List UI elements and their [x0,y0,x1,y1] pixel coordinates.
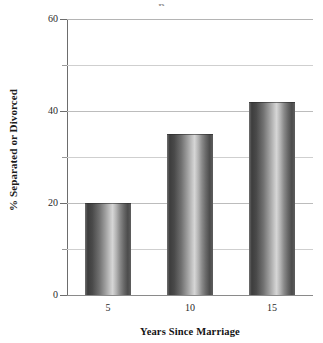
y-axis-title: % Separated or Divorced [4,0,22,300]
x-axis-line [67,295,313,296]
chart-title-remnant: p [0,0,323,6]
x-tick-label: 10 [160,303,220,313]
x-tick-label: 5 [78,303,138,313]
y-tick-mark [60,19,67,20]
y-tick-mark-minor [62,249,67,250]
x-axis-title: Years Since Marriage [67,326,313,337]
y-tick-mark [60,203,67,204]
y-tick-label: 60 [12,14,58,24]
bar [249,102,295,295]
bar-chart: p % Separated or Divorced 0204060 51015 … [0,0,323,343]
bar [85,203,131,295]
gridline [67,65,313,66]
y-tick-mark [60,111,67,112]
y-tick-label: 40 [12,106,58,116]
x-tick-label: 15 [242,303,302,313]
y-tick-mark-minor [62,157,67,158]
bar [167,134,213,295]
y-tick-label: 20 [12,198,58,208]
y-tick-label: 0 [12,290,58,300]
plot-area [67,19,313,295]
y-tick-mark-minor [62,65,67,66]
y-tick-mark [60,295,67,296]
gridline [67,19,313,20]
